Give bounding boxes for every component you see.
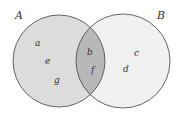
venn-svg: A B a e g b f c d <box>0 0 177 118</box>
venn-diagram: A B a e g b f c d <box>0 0 177 118</box>
element-d: d <box>123 64 129 74</box>
element-b: b <box>87 47 93 57</box>
element-e: e <box>45 56 50 66</box>
element-g: g <box>54 75 60 85</box>
set-label-b: B <box>156 9 165 22</box>
set-label-a: A <box>14 9 23 22</box>
element-c: c <box>134 48 139 58</box>
element-a: a <box>35 38 40 48</box>
